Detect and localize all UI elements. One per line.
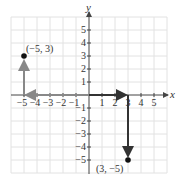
x-tick-label: 2 [113,97,118,108]
y-tick-label: 4 [81,37,86,48]
y-tick-label: −4 [75,141,86,152]
point-3-neg5 [125,157,131,163]
y-axis-label: y [85,1,91,13]
point-label-neg5-3: (−5, 3) [26,43,53,55]
y-tick-label: −3 [75,128,86,139]
x-tick-label: 3 [126,97,131,108]
y-tick-label: −2 [75,115,86,126]
y-tick-label: 5 [81,24,86,35]
x-axis-label: x [169,88,175,100]
x-tick-label: 4 [139,97,144,108]
y-tick-label: −5 [75,154,86,165]
x-tick-label: 5 [152,97,157,108]
point-label-3-neg5: (3, −5) [96,163,123,175]
x-tick-label: −5 [17,97,28,108]
coordinate-plane: x y −5 −4 −3 −2 −1 1 2 3 4 5 5 4 3 2 1 −… [0,0,179,182]
x-tick-label: −3 [43,97,54,108]
y-tick-label: 2 [81,63,86,74]
x-tick-label: −2 [56,97,67,108]
x-tick-label: −4 [30,97,41,108]
y-tick-label: −1 [75,102,86,113]
y-tick-label: 3 [81,50,86,61]
x-tick-label: 1 [100,97,105,108]
point-neg5-3 [21,53,27,59]
y-tick-label: 1 [81,76,86,87]
